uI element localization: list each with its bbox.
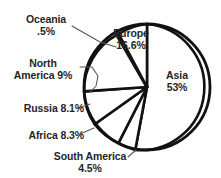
pie-chart-figure: Oceania .5% North America 9% Russia 8.1%… bbox=[0, 0, 221, 178]
slice-label-south-america-value: 4.5% bbox=[40, 163, 140, 175]
slice-label-asia-name: Asia bbox=[166, 69, 188, 81]
slice-label-asia-value: 53% bbox=[156, 82, 198, 94]
slice-label-russia: Russia 8.1% bbox=[6, 103, 84, 115]
slice-label-russia-text: Russia 8.1% bbox=[24, 102, 84, 114]
slice-label-south-america: South America 4.5% bbox=[40, 151, 140, 174]
slice-label-north-america-name: North bbox=[29, 57, 57, 69]
slice-label-oceania-value: .5% bbox=[10, 26, 82, 38]
slice-label-europe-value: 16.6% bbox=[103, 40, 159, 52]
slice-label-oceania-name: Oceania bbox=[26, 13, 66, 25]
slice-label-north-america-value: America 9% bbox=[2, 70, 84, 82]
slice-label-europe-name: Europe bbox=[113, 27, 149, 39]
slice-label-africa: Africa 8.3% bbox=[12, 130, 84, 142]
slice-label-oceania: Oceania .5% bbox=[10, 14, 82, 37]
slice-label-asia: Asia 53% bbox=[156, 70, 198, 93]
slice-label-north-america: North America 9% bbox=[2, 58, 84, 81]
slice-label-south-america-name: South America bbox=[54, 150, 126, 162]
slice-label-africa-text: Africa 8.3% bbox=[28, 129, 84, 141]
slice-label-europe: Europe 16.6% bbox=[103, 28, 159, 51]
